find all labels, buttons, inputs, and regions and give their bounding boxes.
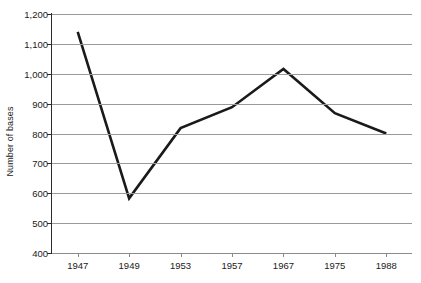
line-chart: Number of bases 1,2001,1001,000900800700…: [0, 0, 421, 283]
y-axis-tick: [47, 74, 52, 75]
y-axis-tick: [47, 253, 52, 254]
x-axis-tick: [78, 253, 79, 257]
y-axis-title: Number of bases: [2, 0, 18, 283]
gridline: [52, 163, 412, 164]
gridline: [52, 104, 412, 105]
x-axis-tick-label: 1949: [119, 260, 140, 271]
y-axis-tick-label: 800: [32, 128, 48, 139]
y-axis-tick-label: 500: [32, 218, 48, 229]
x-axis-tick-label: 1947: [67, 260, 88, 271]
y-axis-tick-label: 600: [32, 188, 48, 199]
x-axis-tick: [335, 253, 336, 257]
x-axis-tick-label: 1967: [273, 260, 294, 271]
x-axis-tick-label: 1953: [170, 260, 191, 271]
y-axis-tick-label: 1,100: [24, 38, 48, 49]
y-axis-tick-label: 900: [32, 98, 48, 109]
y-axis-tick: [47, 163, 52, 164]
y-axis-tick: [47, 134, 52, 135]
gridline: [52, 134, 412, 135]
y-axis-tick: [47, 104, 52, 105]
y-axis-tick: [47, 44, 52, 45]
plot-area: [52, 14, 412, 253]
x-axis-tick: [129, 253, 130, 257]
y-axis-tick: [47, 14, 52, 15]
x-axis-tick: [283, 253, 284, 257]
gridline: [52, 193, 412, 194]
x-axis-tick: [386, 253, 387, 257]
x-axis-tick-label: 1988: [376, 260, 397, 271]
x-axis-tick-label: 1975: [324, 260, 345, 271]
y-axis-tick-label: 400: [32, 248, 48, 259]
x-axis-tick: [181, 253, 182, 257]
y-axis-tick: [47, 223, 52, 224]
gridline: [52, 14, 412, 15]
x-axis-tick-label: 1957: [221, 260, 242, 271]
gridline: [52, 74, 412, 75]
x-axis-tick: [232, 253, 233, 257]
gridline: [52, 223, 412, 224]
y-axis-tick-label: 1,200: [24, 9, 48, 20]
y-axis-tick-label: 1,000: [24, 68, 48, 79]
gridline: [52, 44, 412, 45]
y-axis-tick-labels: 1,2001,1001,000900800700600500400: [18, 0, 48, 283]
y-axis-tick: [47, 193, 52, 194]
y-axis-tick-label: 700: [32, 158, 48, 169]
